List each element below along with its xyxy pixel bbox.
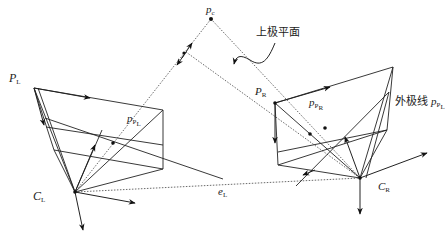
right-camera-center-dot bbox=[358, 176, 362, 180]
label-epipolar-plane: 上极平面 bbox=[256, 25, 300, 39]
epipolar-plane-callout bbox=[234, 43, 275, 64]
label-epipolar-line: 外极线pPL bbox=[395, 94, 445, 111]
right-plane-corner-dot bbox=[273, 101, 277, 105]
left-camera-center-dot bbox=[73, 190, 77, 194]
label-left-projection: pPL bbox=[126, 112, 141, 128]
label-right-camera-center: CR bbox=[378, 180, 390, 194]
left-camera-axes bbox=[34, 88, 135, 230]
right-image-plane bbox=[275, 67, 393, 186]
epipolar-point-dot bbox=[308, 132, 312, 136]
label-epipole: eL bbox=[218, 185, 227, 199]
label-left-image-plane: PL bbox=[8, 71, 21, 86]
left-projection-dot bbox=[111, 141, 115, 145]
label-world-point: pc bbox=[205, 3, 215, 17]
label-left-camera-center: CL bbox=[33, 189, 45, 204]
ray-point-dot bbox=[182, 51, 185, 54]
left-image-plane bbox=[34, 88, 223, 192]
epipolar-geometry-diagram: pc 上极平面 PL PR pPL pPR 外极线pPL CL CR eL bbox=[0, 0, 446, 239]
world-point-dot bbox=[209, 17, 213, 21]
right-projection-dot bbox=[323, 126, 327, 130]
label-right-image-plane: PR bbox=[254, 85, 267, 99]
label-right-projection: pPR bbox=[308, 96, 323, 112]
